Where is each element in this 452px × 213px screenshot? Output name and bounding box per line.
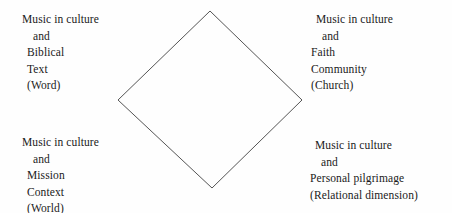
- label-line: Music in culture: [311, 11, 393, 28]
- label-line: Music in culture: [22, 11, 99, 28]
- diamond-outline: [118, 11, 302, 188]
- label-line: and: [311, 28, 393, 45]
- label-line: Music in culture: [22, 134, 99, 151]
- label-line: Personal pilgrimage: [310, 170, 418, 187]
- label-line: (Relational dimension): [310, 187, 418, 204]
- label-line: (Word): [22, 77, 99, 94]
- label-line: Context: [22, 184, 99, 201]
- label-line: Music in culture: [310, 137, 418, 154]
- label-line: Faith: [311, 44, 393, 61]
- label-block-world: Music in culture and Mission Context (Wo…: [22, 134, 99, 213]
- label-line: (World): [22, 200, 99, 213]
- label-line: and: [22, 151, 99, 168]
- label-line: Community: [311, 61, 393, 78]
- label-line: and: [22, 28, 99, 45]
- label-block-relational: Music in culture and Personal pilgrimage…: [310, 137, 418, 203]
- diagram-canvas: Music in culture and Biblical Text (Word…: [0, 0, 452, 213]
- label-line: Text: [22, 61, 99, 78]
- label-line: and: [310, 154, 418, 171]
- label-line: Mission: [22, 167, 99, 184]
- label-line: Biblical: [22, 44, 99, 61]
- label-block-church: Music in culture and Faith Community (Ch…: [311, 11, 393, 94]
- label-block-word: Music in culture and Biblical Text (Word…: [22, 11, 99, 94]
- label-line: (Church): [311, 77, 393, 94]
